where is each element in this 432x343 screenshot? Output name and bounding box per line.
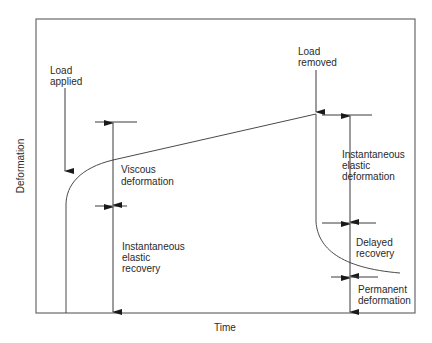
permanent-deformation-label-line1: Permanent (358, 284, 407, 295)
permanent-deformation-label-line2: deformation (358, 295, 411, 306)
creep-recovery-diagram: Deformation Time Load applied Load remov… (0, 0, 432, 343)
load-removed-annotation: Load removed (298, 46, 337, 112)
instantaneous-elastic-deformation-dimension: Instantaneous elastic deformation (322, 115, 405, 223)
instantaneous-elastic-deformation-label-line3: deformation (342, 171, 395, 182)
viscous-deformation-label-line1: Viscous (121, 164, 156, 175)
x-axis-label: Time (214, 322, 236, 333)
viscous-deformation-dimension: Viscous deformation (95, 122, 174, 206)
load-applied-annotation: Load applied (50, 65, 82, 171)
viscous-deformation-label-line2: deformation (121, 176, 174, 187)
load-removed-label-line1: Load (298, 46, 320, 57)
delayed-recovery-label-line2: recovery (356, 248, 394, 259)
instantaneous-elastic-recovery-label-line1: Instantaneous (122, 241, 185, 252)
delayed-recovery-dimension: Delayed recovery (350, 224, 394, 276)
load-removed-label-line2: removed (298, 57, 337, 68)
load-applied-label-line1: Load (50, 65, 72, 76)
instantaneous-elastic-deformation-label-line1: Instantaneous (342, 149, 405, 160)
delayed-recovery-label-line1: Delayed (356, 237, 393, 248)
load-applied-label-line2: applied (50, 76, 82, 87)
permanent-deformation-dimension: Permanent deformation (331, 277, 411, 312)
instantaneous-elastic-recovery-dimension: Instantaneous elastic recovery (113, 207, 185, 312)
y-axis-label: Deformation (15, 139, 26, 193)
instantaneous-elastic-recovery-label-line3: recovery (122, 263, 160, 274)
instantaneous-elastic-deformation-label-line2: elastic (342, 160, 370, 171)
instantaneous-elastic-recovery-label-line2: elastic (122, 252, 150, 263)
